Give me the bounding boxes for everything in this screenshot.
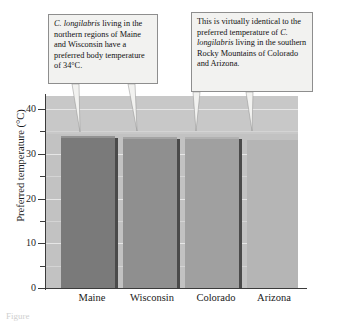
plot-band-upper xyxy=(46,96,298,134)
plot-area xyxy=(46,96,298,288)
bar-maine-face xyxy=(61,136,115,288)
figure-caption: Figure xyxy=(6,311,30,322)
callout-left-species: C. longilabris xyxy=(54,19,100,28)
y-tick-5 xyxy=(40,266,45,267)
y-tick-20 xyxy=(38,199,45,200)
bar-maine-highlight xyxy=(61,136,115,138)
y-tick-40 xyxy=(38,109,45,110)
y-tick-15 xyxy=(40,221,45,222)
bar-wisconsin[interactable] xyxy=(123,137,180,288)
y-tick-35 xyxy=(40,131,45,132)
callout-right: This is virtually identical to the prefe… xyxy=(191,12,313,92)
y-tick-10 xyxy=(38,243,45,244)
bar-arizona-face xyxy=(247,138,298,288)
bar-arizona-highlight xyxy=(247,138,298,140)
y-tick-0 xyxy=(38,288,45,289)
bar-wisconsin-face xyxy=(123,137,177,288)
gridline-35 xyxy=(46,131,298,132)
bar-wisconsin-edge xyxy=(177,139,180,288)
bar-arizona[interactable] xyxy=(247,138,298,288)
bar-maine[interactable] xyxy=(61,136,118,288)
y-tick-label-0: 0 xyxy=(16,283,36,293)
y-tick-30 xyxy=(38,154,45,155)
y-axis-line xyxy=(45,94,46,290)
figure-bar-chart: 40 30 20 10 0 Preferred temperature (°C)… xyxy=(0,0,339,324)
bar-colorado-highlight xyxy=(185,137,239,139)
bar-wisconsin-highlight xyxy=(123,137,177,139)
y-axis-title: Preferred temperature (°C) xyxy=(15,76,26,256)
bar-colorado-face xyxy=(185,137,239,288)
x-axis-line xyxy=(45,288,307,289)
y-tick-25 xyxy=(40,176,45,177)
x-label-arizona: Arizona xyxy=(243,292,305,304)
bar-colorado[interactable] xyxy=(185,137,242,288)
bar-colorado-edge xyxy=(239,139,242,288)
bar-maine-edge xyxy=(115,138,118,288)
gridline-40 xyxy=(46,109,298,110)
callout-left: C. longilabris living in the northern re… xyxy=(48,14,158,84)
y-tick-label-0-wrap: 0 xyxy=(0,283,36,293)
